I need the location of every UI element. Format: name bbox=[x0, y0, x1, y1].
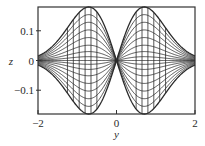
y-tick-label: 0 bbox=[29, 55, 35, 67]
axis-ticks: −2020.10−0.1 bbox=[14, 25, 198, 129]
chart: −2020.10−0.1 y z bbox=[0, 0, 205, 146]
y-tick-label: 0.1 bbox=[20, 25, 34, 37]
plot-svg: −2020.10−0.1 y z bbox=[0, 0, 205, 146]
x-tick-label: −2 bbox=[32, 117, 44, 129]
y-axis-label: z bbox=[8, 55, 14, 67]
curve-family bbox=[38, 7, 195, 114]
x-tick-label: 2 bbox=[192, 117, 198, 129]
x-axis-label: y bbox=[113, 128, 119, 140]
y-tick-label: −0.1 bbox=[14, 84, 34, 96]
